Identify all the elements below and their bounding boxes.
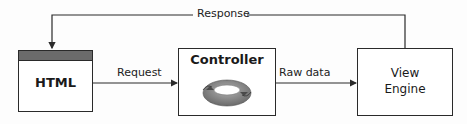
controller-node: Controller	[178, 48, 276, 116]
view-engine-label-line2: Engine	[358, 82, 452, 96]
html-node-label: HTML	[19, 75, 92, 90]
title-bar	[19, 51, 92, 61]
controller-node-label: Controller	[179, 52, 275, 67]
view-engine-label-line1: View	[358, 66, 452, 80]
request-label: Request	[117, 66, 162, 79]
ring-cycle-icon	[197, 73, 257, 109]
view-engine-node: View Engine	[357, 48, 453, 116]
response-label: Response	[197, 7, 250, 20]
html-node: HTML	[18, 50, 93, 112]
raw-data-label: Raw data	[279, 66, 330, 79]
